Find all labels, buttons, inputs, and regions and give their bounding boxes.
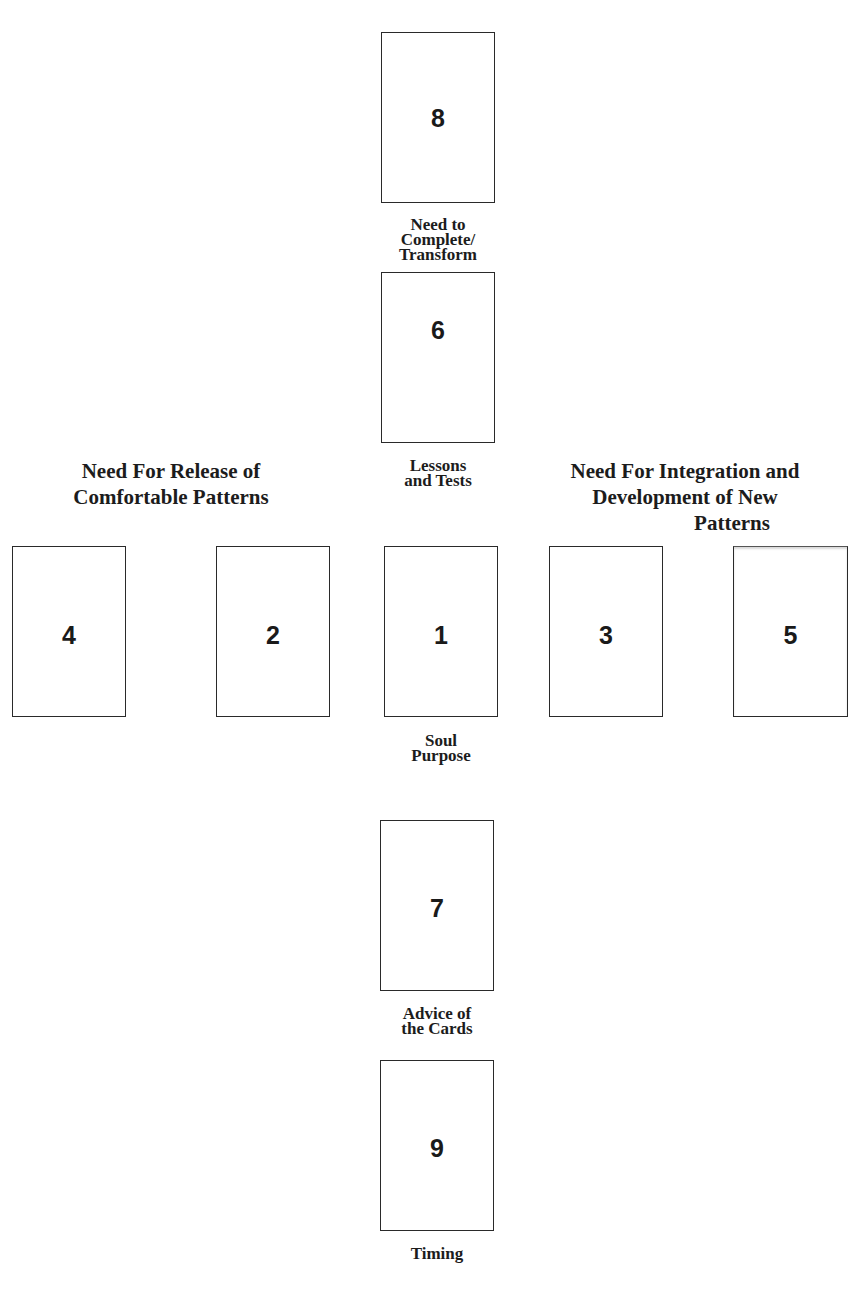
heading-line: Need For Integration and	[516, 458, 854, 484]
card-number: 8	[382, 104, 494, 133]
card-8-label: Need to Complete/ Transform	[358, 217, 518, 262]
label-line: Transform	[358, 247, 518, 262]
card-position-3: 3	[549, 546, 663, 717]
label-line: Purpose	[361, 748, 521, 763]
card-number: 9	[381, 1134, 493, 1163]
right-group-heading: Need For Integration and Development of …	[516, 458, 854, 536]
heading-line: Need For Release of	[0, 458, 342, 484]
card-number: 6	[382, 316, 494, 345]
card-number: 7	[381, 894, 493, 923]
card-position-6: 6	[381, 272, 495, 443]
card-position-5: 5	[733, 546, 848, 717]
card-position-8: 8	[381, 32, 495, 203]
card-7-label: Advice of the Cards	[357, 1006, 517, 1036]
label-line: the Cards	[357, 1021, 517, 1036]
label-line: Timing	[357, 1246, 517, 1261]
card-position-9: 9	[380, 1060, 494, 1231]
heading-line: Development of New	[516, 484, 854, 510]
card-number: 2	[217, 621, 329, 650]
card-9-label: Timing	[357, 1246, 517, 1261]
heading-line: Comfortable Patterns	[0, 484, 342, 510]
left-group-heading: Need For Release of Comfortable Patterns	[0, 458, 342, 510]
card-6-label: Lessons and Tests	[358, 458, 518, 488]
card-position-1: 1	[384, 546, 498, 717]
heading-line: Patterns	[516, 510, 854, 536]
card-1-label: Soul Purpose	[361, 733, 521, 763]
label-line: and Tests	[358, 473, 518, 488]
card-number: 5	[734, 621, 847, 650]
card-position-2: 2	[216, 546, 330, 717]
card-number: 1	[385, 621, 497, 650]
card-number: 4	[13, 621, 125, 650]
card-position-7: 7	[380, 820, 494, 991]
cropped-title	[425, 0, 465, 2]
card-position-4: 4	[12, 546, 126, 717]
card-number: 3	[550, 621, 662, 650]
